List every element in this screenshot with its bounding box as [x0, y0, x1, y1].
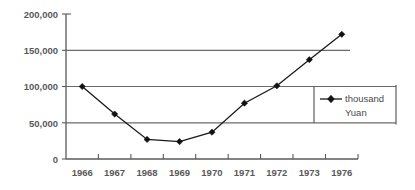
- chart-canvas: 200,000 150,000 100,000 50,000 0 1966 19…: [0, 0, 415, 190]
- legend-label-line1: thousand: [345, 93, 384, 104]
- y-axis-label-50000: 50,000: [29, 118, 58, 129]
- x-axis-label-1966: 1966: [72, 167, 93, 178]
- x-axis-label-1969: 1969: [169, 167, 190, 178]
- y-axis-label-100000: 100,000: [24, 81, 58, 92]
- y-axis-label-150000: 150,000: [24, 45, 58, 56]
- data-point-1969: [176, 139, 182, 145]
- legend-sample-marker-icon: [328, 95, 335, 103]
- y-axis-label-200000: 200,000: [24, 9, 58, 20]
- y-axis-label-0: 0: [53, 154, 58, 165]
- x-axis-label-1971: 1971: [234, 167, 256, 178]
- x-axis-label-1973: 1973: [299, 167, 320, 178]
- x-axis-label-1972: 1972: [266, 167, 287, 178]
- legend-label-line2: Yuan: [345, 107, 367, 118]
- series-markers: [79, 31, 345, 145]
- line-chart: 200,000 150,000 100,000 50,000 0 1966 19…: [0, 0, 415, 190]
- x-axis-label-1967: 1967: [104, 167, 125, 178]
- x-axis-label-1970: 1970: [201, 167, 222, 178]
- x-axis-label-1976: 1976: [331, 167, 352, 178]
- x-axis-label-1968: 1968: [137, 167, 158, 178]
